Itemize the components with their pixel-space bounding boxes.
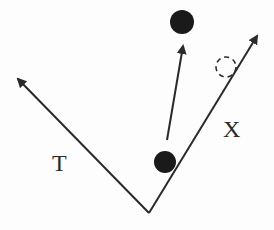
x-axis-label: X — [223, 117, 240, 141]
x-axis-arrow — [149, 36, 257, 213]
diagram-graphics — [0, 0, 274, 230]
spacetime-diagram: T X — [0, 0, 274, 230]
t-axis-label: T — [52, 151, 67, 175]
displacement-arrow — [167, 46, 183, 140]
moved-particle-dot — [170, 10, 194, 34]
origin-particle-dot — [154, 151, 176, 173]
t-axis-arrow — [18, 79, 149, 213]
